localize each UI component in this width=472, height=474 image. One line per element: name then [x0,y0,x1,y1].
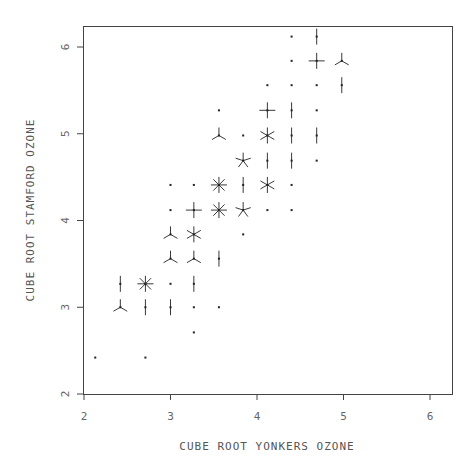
sunflower-point [260,127,274,143]
petal [213,179,219,185]
sunflower-point [335,53,349,65]
petal [171,259,178,263]
sunflower-point [170,299,172,315]
x-tick-label: 4 [254,410,261,423]
sunflower-point [309,53,325,69]
sunflower-point [266,209,268,211]
sunflower-point [316,127,318,143]
sunflower-point [291,209,293,211]
sunflower-point [193,306,195,308]
x-tick-label: 2 [81,410,88,423]
point-dot [316,160,318,162]
sunflower-point [170,184,172,186]
sunflower-point [316,109,318,111]
sunflower-point [144,357,146,359]
point-dot [291,36,293,38]
petal [213,185,219,191]
sunflower-point [94,357,96,359]
petal [238,210,243,216]
point-dot [218,109,220,111]
point-dot [291,184,293,186]
sunflower-point [291,153,293,169]
petal [260,131,267,135]
petal [113,307,120,311]
sunflower-point [187,251,201,263]
sunflower-point [212,127,226,139]
petal [194,230,201,234]
x-tick-label: 3 [167,410,174,423]
point-dot [144,357,146,359]
point-dot [291,60,293,62]
sunflower-point [291,60,293,62]
point-dot [291,84,293,86]
petal [260,135,267,139]
petal [219,204,225,210]
point-dot [266,209,268,211]
sunflower-point [187,226,201,242]
petal [213,210,219,216]
sunflower-point [218,109,220,111]
petal [187,259,194,263]
sunflower-point [316,160,318,162]
sunflower-point [211,177,227,193]
x-tick-label: 6 [427,410,434,423]
petal [213,204,219,210]
petal [243,210,248,216]
petal [187,234,194,238]
y-tick-label: 6 [59,44,72,51]
petal [187,230,194,234]
sunflower-plot: 23456 23456 CUBE ROOT YONKERS OZONE CUBE… [0,0,472,474]
point-dot [170,283,172,285]
sunflower-point [193,276,195,292]
sunflower-point [291,84,293,86]
sunflower-point [341,77,343,93]
petal [243,158,251,160]
petal [260,185,267,189]
y-tick-label: 3 [59,304,72,311]
sunflower-point [316,84,318,86]
sunflower-point [266,84,268,86]
sunflower-point [242,233,244,235]
sunflower-point [186,202,202,218]
point-dot [170,209,172,211]
point-dot [218,306,220,308]
sunflower-point [164,226,178,238]
sunflower-point [170,283,172,285]
petal [260,181,267,185]
sunflower-point [193,331,195,333]
sunflower-point [164,251,178,263]
sunflower-point [242,134,244,136]
sunflower-point [137,276,153,292]
petal [164,259,171,263]
petal [140,278,146,284]
x-tick-label: 5 [340,410,347,423]
point-dot [193,306,195,308]
petal [145,284,151,290]
petal [194,259,201,263]
sunflower-point [291,102,293,118]
sunflower-markers [94,29,348,359]
petal [219,185,225,191]
y-tick-label: 4 [59,217,72,224]
petal [335,61,342,65]
sunflower-point [218,251,220,267]
petal [267,185,274,189]
sunflower-point [236,202,251,216]
sunflower-point [316,29,318,45]
sunflower-point [266,153,268,169]
point-dot [193,331,195,333]
y-axis: 23456 [59,44,83,398]
sunflower-point [193,184,195,186]
petal [219,179,225,185]
petal [219,135,226,139]
sunflower-point [242,177,244,193]
petal [194,234,201,238]
point-dot [291,209,293,211]
petal [171,234,178,238]
sunflower-point [113,299,127,311]
petal [342,61,349,65]
petal [238,161,243,167]
x-axis-title: CUBE ROOT YONKERS OZONE [179,440,354,453]
petal [243,161,248,167]
point-dot [266,84,268,86]
